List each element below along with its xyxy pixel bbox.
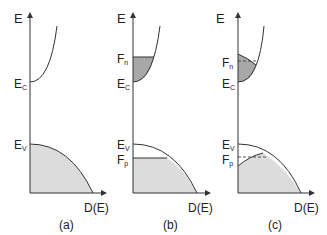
panel-caption: (b): [163, 218, 178, 232]
density-of-states-diagram: E EC EV D(E) (a) E Fn EC EV Fp D(E) (b) …: [0, 0, 327, 235]
panel-c: E Fn EC EV Fp D(E) (c): [216, 11, 319, 232]
ec-label: EC: [14, 77, 27, 91]
ev-label: EV: [117, 138, 130, 152]
dos-axis-label: D(E): [84, 201, 109, 215]
conduction-fill: [133, 57, 154, 82]
fp-label: Fp: [117, 153, 128, 168]
energy-axis-label: E: [14, 11, 23, 26]
conduction-band-curve: [30, 26, 57, 82]
panel-caption: (a): [59, 218, 74, 232]
dos-axis-label: D(E): [294, 201, 319, 215]
fn-label: Fn: [117, 52, 128, 66]
ec-label: EC: [117, 77, 130, 91]
ev-label: EV: [222, 138, 235, 152]
ev-label: EV: [14, 138, 27, 152]
fp-label: Fp: [222, 153, 233, 168]
panel-caption: (c): [268, 218, 282, 232]
fn-label: Fn: [222, 56, 233, 70]
energy-axis-label: E: [117, 11, 126, 26]
dos-axis-label: D(E): [188, 201, 213, 215]
panel-b: E Fn EC EV Fp D(E) (b): [117, 11, 213, 232]
ec-label: EC: [222, 77, 235, 91]
valence-band-fill: [30, 144, 93, 193]
panel-a: E EC EV D(E) (a): [14, 11, 109, 232]
energy-axis-label: E: [216, 11, 225, 26]
